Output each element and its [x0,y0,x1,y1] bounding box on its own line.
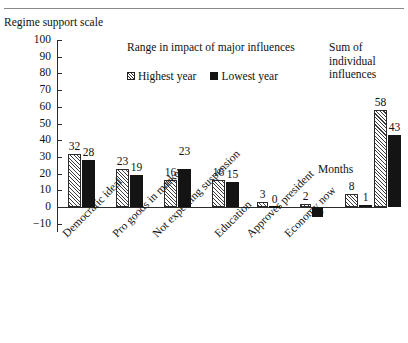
bar-value-lowest-1: 19 [123,162,151,174]
y-tick-label-80: 80 [25,67,51,79]
bar-highest-3 [212,180,225,207]
bar-value-lowest-2: 23 [171,146,199,158]
bar-value-lowest-7: 43 [381,122,408,134]
y-tick-30 [57,157,62,158]
plot-area: 1009080706050403020100−10 Range in impac… [0,0,408,343]
y-tick-80 [57,73,62,74]
y-tick-label-40: 40 [25,134,51,146]
y-tick-label-50: 50 [25,118,51,130]
hatched-square-icon [127,72,135,80]
y-tick-label-100: 100 [25,34,51,46]
x-axis-line [57,207,387,208]
y-tick-label-20: 20 [25,168,51,180]
y-tick-70 [57,90,62,91]
y-tick-label-30: 30 [25,151,51,163]
bar-lowest-6 [359,205,372,207]
bar-value-lowest-0: 28 [75,147,103,159]
bar-lowest-7 [388,135,401,207]
y-tick-50 [57,124,62,125]
y-axis-line [57,40,58,232]
legend-item-lowest-year: Lowest year [210,70,278,82]
months-note: Months [318,163,353,175]
y-tick-label-70: 70 [25,84,51,96]
y-tick-10 [57,190,62,191]
figure-container: Regime support scale 1009080706050403020… [0,0,408,343]
y-tick--10 [57,224,62,225]
filled-square-icon [210,72,218,80]
y-tick-label-10: 10 [25,184,51,196]
legend-label-lowest-year: Lowest year [221,70,278,82]
y-tick-label-0: 0 [25,201,51,213]
chart-legend: Highest year Lowest year [127,70,288,82]
sum-of-individual-influences-note: Sum of individual influences [329,41,408,82]
legend-item-highest-year: Highest year [127,70,196,82]
y-tick-0 [57,207,62,208]
legend-label-highest-year: Highest year [138,70,196,82]
bar-lowest-3 [226,182,239,207]
y-tick-20 [57,174,62,175]
y-tick-label-60: 60 [25,101,51,113]
chart-title: Range in impact of major influences [127,41,295,53]
y-tick-100 [57,40,62,41]
y-tick-label-90: 90 [25,51,51,63]
bar-value-highest-7: 58 [367,97,395,109]
y-tick-90 [57,57,62,58]
bar-highest-0 [68,154,81,207]
y-tick-60 [57,107,62,108]
y-tick-label--10: −10 [25,218,51,230]
bar-value-highest-6: 8 [338,181,366,193]
